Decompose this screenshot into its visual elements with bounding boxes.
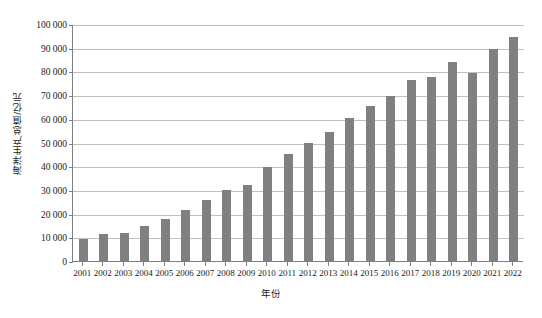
x-axis-tick-label: 2002: [93, 268, 114, 282]
bar: [161, 219, 170, 261]
x-axis-tick-label: 2022: [503, 268, 524, 282]
x-axis-tick: [287, 262, 288, 266]
bar-slot: [155, 24, 176, 261]
x-axis-tick-label: 2001: [72, 268, 93, 282]
bar-slot: [504, 24, 525, 261]
bar-slot: [422, 24, 443, 261]
x-tick-slot: [298, 262, 319, 266]
x-tick-slot: [441, 262, 462, 266]
x-axis-tick-label: 2008: [216, 268, 237, 282]
bar: [222, 190, 231, 261]
bar-slot: [299, 24, 320, 261]
x-tick-slot: [134, 262, 155, 266]
x-axis-tick: [369, 262, 370, 266]
bar-slot: [114, 24, 135, 261]
x-tick-slot: [113, 262, 134, 266]
x-axis-tick-label: 2004: [134, 268, 155, 282]
x-axis-tick-label: 2005: [154, 268, 175, 282]
x-axis-tick-label: 2016: [380, 268, 401, 282]
bar: [386, 96, 395, 261]
bar: [263, 167, 272, 261]
bar-slot: [483, 24, 504, 261]
y-axis-tick-label: 50 000: [41, 139, 67, 149]
x-tick-group: [72, 262, 523, 266]
x-axis-tick: [348, 262, 349, 266]
x-tick-slot: [462, 262, 483, 266]
x-axis-tick-label: 2021: [482, 268, 503, 282]
x-axis-tick: [184, 262, 185, 266]
x-axis-tick-label: 2007: [195, 268, 216, 282]
x-axis-tick-label: 2018: [421, 268, 442, 282]
x-axis-tick: [225, 262, 226, 266]
bar: [120, 233, 129, 261]
bar-slot: [135, 24, 156, 261]
bar: [448, 62, 457, 261]
bar: [407, 80, 416, 261]
x-axis-tick-label: 2009: [236, 268, 257, 282]
x-axis-tick: [205, 262, 206, 266]
x-tick-slot: [93, 262, 114, 266]
x-axis-tick: [410, 262, 411, 266]
y-axis-tick-label: 0: [62, 257, 67, 267]
y-axis-tick-label: 70 000: [41, 91, 67, 101]
x-axis-tick-label: 2019: [441, 268, 462, 282]
bar: [202, 200, 211, 261]
x-tick-slot: [72, 262, 93, 266]
x-tick-slot: [195, 262, 216, 266]
bar-slot: [176, 24, 197, 261]
bar-slot: [237, 24, 258, 261]
bar-slot: [401, 24, 422, 261]
x-axis-tick: [266, 262, 267, 266]
bar: [181, 210, 190, 261]
bar-slot: [319, 24, 340, 261]
x-axis-tick: [123, 262, 124, 266]
bar: [325, 132, 334, 261]
x-tick-slot: [380, 262, 401, 266]
bar-slot: [278, 24, 299, 261]
x-axis-tick: [102, 262, 103, 266]
y-axis-tick-label: 20 000: [41, 210, 67, 220]
x-axis-tick: [164, 262, 165, 266]
bar: [468, 73, 477, 261]
x-axis-tick: [451, 262, 452, 266]
x-axis-tick: [143, 262, 144, 266]
y-axis-tick-label: 90 000: [41, 44, 67, 54]
bar-slot: [94, 24, 115, 261]
bar-chart: 海洋生产总值/亿元 010 00020 00030 00040 00050 00…: [0, 0, 542, 318]
bar-slot: [258, 24, 279, 261]
y-axis-tick-label: 60 000: [41, 115, 67, 125]
x-axis-tick-label: 2003: [113, 268, 134, 282]
bar-slot: [381, 24, 402, 261]
x-axis-tick-label: 2013: [318, 268, 339, 282]
bar: [489, 49, 498, 261]
y-axis-tick-label: 10 000: [41, 233, 67, 243]
x-axis-tick-label: 2017: [400, 268, 421, 282]
x-tick-slot: [339, 262, 360, 266]
x-axis-tick: [492, 262, 493, 266]
x-axis-tick: [82, 262, 83, 266]
x-tick-slot: [257, 262, 278, 266]
bar: [99, 234, 108, 261]
x-axis-tick-label: 2015: [359, 268, 380, 282]
bar: [427, 77, 436, 261]
x-tick-slot: [216, 262, 237, 266]
bar: [140, 226, 149, 261]
y-axis-tick-label: 30 000: [41, 186, 67, 196]
x-axis-tick-label: 2014: [339, 268, 360, 282]
y-axis-tick-label: 100 000: [36, 20, 67, 30]
x-tick-slot: [400, 262, 421, 266]
x-axis-tick-label: 2006: [175, 268, 196, 282]
bar-slot: [73, 24, 94, 261]
x-axis-tick: [471, 262, 472, 266]
x-axis-tick-label: 2020: [462, 268, 483, 282]
x-axis-tick: [328, 262, 329, 266]
bar-slot: [463, 24, 484, 261]
x-tick-slot: [318, 262, 339, 266]
bar-slot: [442, 24, 463, 261]
x-axis-tick: [389, 262, 390, 266]
x-axis-tick: [307, 262, 308, 266]
bar-slot: [360, 24, 381, 261]
bar-slot: [217, 24, 238, 261]
bar-slot: [340, 24, 361, 261]
y-axis-tick-label: 40 000: [41, 162, 67, 172]
